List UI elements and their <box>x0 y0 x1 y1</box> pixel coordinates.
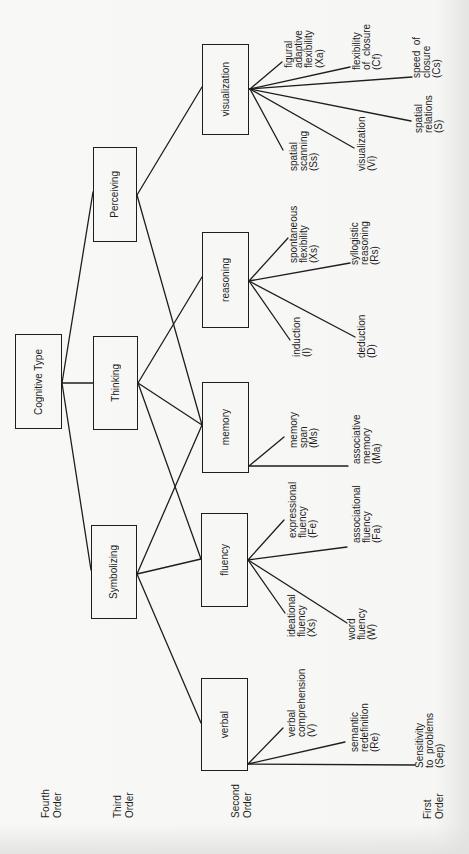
factor-associative-memory: associative memory (Ma) <box>352 415 383 464</box>
edge-cognitive-type-symbolizing <box>62 383 91 570</box>
factor-flexibility-of-closure: flexibility of closure (Cf) <box>352 24 383 70</box>
node-label: Symbolizing <box>108 545 120 599</box>
node-perceiving: Perceiving <box>93 147 137 242</box>
edge-perceiving-visualization <box>137 87 202 195</box>
edge-thinking-fluency <box>138 383 201 559</box>
cognitive-type-diagram: Cognitive Type Perceiving Thinking Symbo… <box>0 0 469 854</box>
factor-verbal-comprehension: verbal comprehension (V) <box>287 669 318 737</box>
edge-reasoning-rs <box>249 263 350 281</box>
factor-speed-of-closure: speed of closure (Cs) <box>412 37 443 78</box>
order-label-fourth: Fourth Order <box>40 789 64 818</box>
node-symbolizing: Symbolizing <box>91 525 137 619</box>
factor-induction: induction (I) <box>292 317 312 357</box>
node-verbal: verbal <box>201 678 248 771</box>
edge-fluency-fa <box>248 547 347 560</box>
node-reasoning: reasoning <box>202 232 249 328</box>
edge-fluency-fe <box>248 520 284 560</box>
order-label-first: First Order <box>422 793 446 819</box>
edge-verbal-v <box>248 728 283 764</box>
node-label: Cognitive Type <box>33 349 45 415</box>
node-label: fluency <box>219 544 231 576</box>
node-thinking: Thinking <box>93 336 138 430</box>
order-label-second: Second Order <box>230 784 254 818</box>
edge-reasoning-i <box>249 281 290 340</box>
node-label: Perceiving <box>109 171 121 218</box>
edge-symbolizing-verbal <box>137 574 201 723</box>
factor-word-fluency: word fluency (W) <box>347 608 378 640</box>
factor-associational-fluency: associational fluency (Fa) <box>352 485 383 543</box>
edge-verbal-sep <box>248 764 415 765</box>
factor-spatial-scanning: spatial scanning (Ss) <box>289 131 320 171</box>
edge-fluency-xs <box>248 560 285 613</box>
factor-expressional-fluency: expressional fluency (Fe) <box>288 482 319 538</box>
node-cognitive-type: Cognitive Type <box>15 334 62 429</box>
edge-thinking-reasoning <box>138 277 202 383</box>
factor-deduction: deduction (D) <box>357 315 377 358</box>
node-fluency: fluency <box>201 513 248 607</box>
factor-sensitivity-to-problems: Sensitivity to problems (Sep) <box>415 713 446 768</box>
factor-spatial-relations: spatial relations (S) <box>414 95 445 133</box>
factor-syllogistic-reasoning: syllogistic reasoning (Rs) <box>350 221 381 265</box>
factor-semantic-redefinition: semantic redefinition (Re) <box>350 703 381 752</box>
edge-visualization-s <box>250 89 411 121</box>
node-label: visualization <box>220 62 232 116</box>
edge-cognitive-type-perceiving <box>62 192 93 383</box>
edge-perceiving-memory <box>137 195 202 425</box>
factor-figural-adaptive-flexibility: figural adaptive flexibility (Xa) <box>284 30 325 68</box>
factor-ideational-fluency: ideational fluency (Xs) <box>287 594 318 637</box>
edge-memory-ms <box>249 437 284 466</box>
factor-memory-span: memory span (Ms) <box>289 412 320 448</box>
node-label: verbal <box>219 711 231 738</box>
factor-spontaneous-flexibility: spontaneous flexibility (Xs) <box>289 206 320 263</box>
edge-verbal-re <box>248 742 345 764</box>
edge-symbolizing-memory <box>137 425 202 574</box>
order-label-third: Third Order <box>112 792 136 818</box>
node-label: reasoning <box>220 258 232 302</box>
node-label: Thinking <box>110 364 122 402</box>
edge-symbolizing-fluency <box>137 559 201 574</box>
factor-visualization: visualization (Vi) <box>357 117 377 171</box>
node-visualization: visualization <box>202 44 249 135</box>
node-label: memory <box>220 409 232 445</box>
node-memory: memory <box>202 382 249 473</box>
